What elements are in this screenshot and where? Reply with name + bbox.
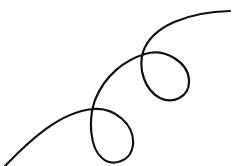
drawing-canvas xyxy=(0,0,235,166)
loop-curve-drawing xyxy=(0,0,235,166)
looped-curve-stroke xyxy=(5,11,230,166)
